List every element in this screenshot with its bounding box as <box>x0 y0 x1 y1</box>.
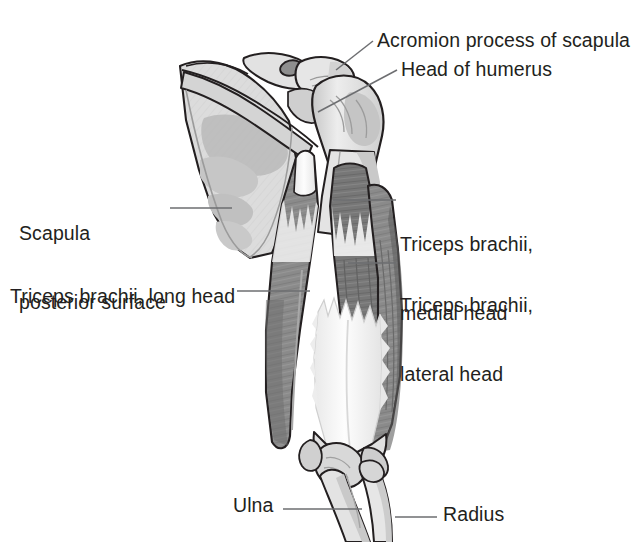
label-triceps-long-head: Triceps brachii, long head <box>10 285 235 308</box>
radius-head <box>360 460 385 482</box>
label-triceps-lateral-head: Triceps brachii, lateral head <box>400 248 533 432</box>
medial-epicondyle <box>299 440 322 471</box>
anatomy-figure: Acromion process of scapula Head of hume… <box>0 0 640 542</box>
label-head-of-humerus: Head of humerus <box>401 58 552 81</box>
label-lateral-line-2: lateral head <box>400 363 533 386</box>
label-scapula-line-1: Scapula <box>19 222 166 245</box>
label-scapula-posterior-surface: Scapula posterior surface <box>19 176 166 360</box>
label-ulna: Ulna <box>233 494 274 517</box>
label-lateral-line-1: Triceps brachii, <box>400 294 533 317</box>
triceps-long-head-tendon <box>294 151 316 196</box>
leader-acromion <box>336 41 373 70</box>
label-radius: Radius <box>443 503 504 526</box>
label-acromion-process: Acromion process of scapula <box>377 29 630 52</box>
